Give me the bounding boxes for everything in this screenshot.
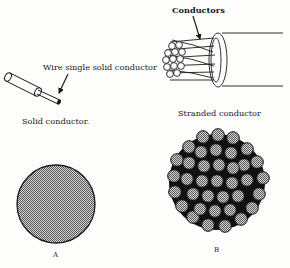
conductor-diagram: Wire single solid conductor Solid conduc… bbox=[0, 0, 290, 268]
label-a: A bbox=[52, 251, 59, 259]
stranded-pointer-arrow bbox=[193, 16, 200, 39]
solid-wire-illustration bbox=[3, 72, 61, 105]
solid-caption: Solid conductor. bbox=[22, 116, 89, 126]
solid-pointer-arrow bbox=[59, 74, 68, 93]
stranded-pointer-label: Conductors bbox=[172, 5, 225, 15]
stranded-cross-section-b bbox=[168, 129, 270, 233]
stranded-caption: Stranded conductor bbox=[178, 108, 261, 118]
solid-cross-section-a bbox=[17, 165, 95, 243]
solid-pointer-label: Wire single solid conductor bbox=[43, 62, 157, 72]
label-b: B bbox=[214, 246, 219, 254]
stranded-wire-illustration bbox=[163, 33, 283, 87]
